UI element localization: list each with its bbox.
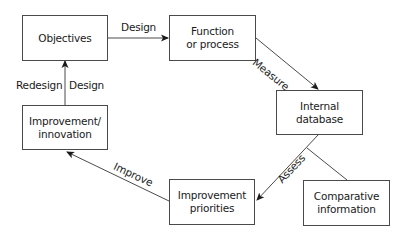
- node-priorities-label: Improvement priorities: [178, 189, 246, 215]
- node-function-or-process: Function or process: [169, 15, 256, 61]
- node-function-label: Function or process: [186, 25, 238, 51]
- node-internal-database: Internal database: [276, 90, 363, 135]
- node-comparative-label: Comparative information: [314, 190, 379, 216]
- node-objectives: Objectives: [22, 15, 108, 61]
- edge-label-design-left: Design: [69, 79, 104, 91]
- node-internal-db-label: Internal database: [296, 100, 343, 126]
- node-improvement-innovation: Improvement/ innovation: [22, 105, 108, 150]
- node-comparative-information: Comparative information: [303, 180, 390, 226]
- edge-comparative-branch: [307, 148, 347, 180]
- node-improvement-priorities: Improvement priorities: [169, 179, 255, 225]
- edge-label-design-top: Design: [121, 21, 156, 33]
- node-objectives-label: Objectives: [38, 32, 91, 45]
- edge-label-redesign: Redesign: [16, 79, 63, 91]
- node-innovation-label: Improvement/ innovation: [29, 115, 101, 141]
